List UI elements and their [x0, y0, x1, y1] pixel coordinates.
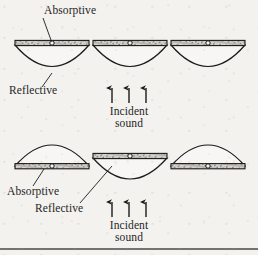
label-absorptive-bottom: Absorptive [7, 185, 59, 198]
leader-line-absorptive-bottom [33, 169, 44, 186]
pivot-point [50, 41, 54, 45]
reflective-bowl [93, 45, 167, 67]
reflective-bowl [15, 45, 89, 67]
pivot-point [50, 164, 54, 168]
bottom-row-panel-1 [15, 145, 89, 169]
label-reflective-top: Reflective [9, 84, 57, 97]
label-incident-bottom-line2: sound [99, 231, 159, 244]
leader-line-absorptive-top [43, 18, 52, 42]
label-incident-top-line2: sound [99, 117, 159, 130]
pivot-point [206, 41, 210, 45]
acoustic-panel-diagram: Absorptive Reflective Incident sound Abs… [0, 0, 258, 255]
pivot-point [128, 41, 132, 45]
top-row-panel-1 [15, 40, 89, 66]
pivot-point [128, 154, 132, 158]
bottom-row-panel-3 [171, 145, 245, 169]
incident-arrows-top [112, 88, 146, 103]
reflective-bowl [93, 158, 167, 179]
reflective-dome [15, 145, 89, 166]
incident-arrows-bottom [112, 202, 146, 217]
top-row-panel-3 [171, 40, 245, 66]
top-row-panel-2 [93, 40, 167, 66]
pivot-point [206, 164, 210, 168]
reflective-bowl [171, 45, 245, 67]
leader-line-reflective-bottom [80, 166, 112, 203]
label-absorptive-top: Absorptive [44, 4, 96, 17]
reflective-dome [171, 145, 245, 166]
label-reflective-bottom: Reflective [35, 202, 83, 215]
